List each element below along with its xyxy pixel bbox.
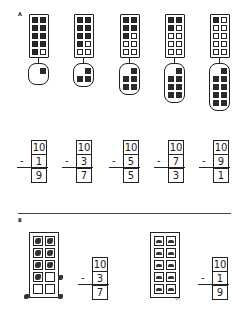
difference: 1 — [213, 169, 229, 183]
problem-b1: 10 3 7 - — [92, 257, 108, 300]
taken-counter — [221, 76, 227, 82]
taken-counter — [168, 92, 174, 98]
car-icon — [154, 284, 164, 294]
empty-counter — [176, 33, 182, 39]
answer-line — [199, 167, 230, 168]
car-icon — [166, 284, 176, 294]
minuend: 10 — [212, 257, 228, 272]
taken-counter — [131, 68, 137, 74]
problem-b2: 10 1 9 - — [212, 257, 228, 300]
empty-counter — [77, 49, 83, 55]
bag-gap — [123, 68, 129, 74]
minuend: 10 — [31, 140, 47, 155]
bird-icon — [45, 248, 55, 258]
filled-counter — [176, 17, 182, 23]
filled-counter — [40, 25, 46, 31]
bag-gap — [213, 68, 219, 74]
take-away-bag — [73, 63, 94, 87]
empty-counter — [221, 17, 227, 23]
empty-counter — [131, 49, 137, 55]
difference: 9 — [212, 286, 228, 300]
minuend: 10 — [92, 257, 108, 272]
answer-line — [62, 167, 93, 168]
take-away-bag — [28, 63, 49, 85]
problem-a5: 10 9 1 - — [213, 140, 229, 183]
empty-counter — [131, 33, 137, 39]
problem-a3: 10 5 5 - — [123, 140, 139, 183]
taken-counter — [213, 76, 219, 82]
bag-gap — [77, 68, 83, 74]
taken-counter — [221, 92, 227, 98]
filled-counter — [77, 25, 83, 31]
empty-cell — [45, 284, 55, 294]
filled-counter — [85, 25, 91, 31]
taken-counter — [168, 84, 174, 90]
minus-sign: - — [157, 156, 161, 166]
removed-bird-icon — [24, 294, 29, 299]
ten-frame — [165, 14, 185, 58]
empty-counter — [221, 41, 227, 47]
filled-counter — [77, 41, 83, 47]
filled-counter — [85, 17, 91, 23]
section-b-label: B — [18, 217, 22, 223]
removed-bird-icon — [58, 275, 63, 280]
section-divider — [18, 213, 231, 214]
bird-icon — [45, 236, 55, 246]
bird-icon — [33, 248, 43, 258]
taken-counter — [176, 76, 182, 82]
car-ten-frame — [150, 232, 180, 298]
problem-a4: 10 7 3 - — [168, 140, 184, 183]
difference: 3 — [168, 169, 184, 183]
empty-counter — [213, 41, 219, 47]
empty-counter — [123, 41, 129, 47]
section-a-label: A — [18, 11, 22, 17]
taken-counter — [221, 100, 227, 106]
filled-counter — [123, 25, 129, 31]
car-icon — [166, 272, 176, 282]
filled-counter — [168, 17, 174, 23]
empty-counter — [213, 49, 219, 55]
empty-counter — [176, 41, 182, 47]
empty-counter — [85, 49, 91, 55]
bag-gap — [32, 68, 38, 74]
empty-counter — [85, 41, 91, 47]
empty-counter — [176, 49, 182, 55]
ten-frame — [29, 14, 49, 58]
minuend: 10 — [76, 140, 92, 155]
difference: 7 — [92, 286, 108, 300]
answer-line — [109, 167, 140, 168]
difference: 9 — [31, 169, 47, 183]
empty-counter — [131, 41, 137, 47]
ten-frame — [210, 14, 230, 58]
filled-counter — [168, 25, 174, 31]
empty-counter — [221, 33, 227, 39]
empty-cell — [33, 284, 43, 294]
empty-counter — [168, 41, 174, 47]
car-icon — [166, 248, 176, 258]
bird-icon — [33, 260, 43, 270]
minus-sign: - — [81, 273, 85, 283]
empty-counter — [40, 49, 46, 55]
taken-counter — [40, 68, 46, 74]
empty-cell — [45, 272, 55, 282]
taken-counter — [85, 68, 91, 74]
empty-counter — [123, 49, 129, 55]
car-icon — [166, 260, 176, 270]
filled-counter — [40, 41, 46, 47]
take-away-bag — [164, 63, 185, 103]
empty-counter — [213, 33, 219, 39]
take-away-bag — [209, 63, 230, 111]
empty-counter — [168, 33, 174, 39]
minuend: 10 — [168, 140, 184, 155]
taken-counter — [176, 68, 182, 74]
filled-counter — [123, 17, 129, 23]
problem-a2: 10 3 7 - — [76, 140, 92, 183]
taken-counter — [85, 76, 91, 82]
taken-counter — [221, 68, 227, 74]
filled-counter — [32, 25, 38, 31]
answer-line — [154, 167, 185, 168]
car-icon — [154, 260, 164, 270]
bird-icon — [45, 260, 55, 270]
minus-sign: - — [201, 273, 205, 283]
filled-counter — [77, 17, 83, 23]
